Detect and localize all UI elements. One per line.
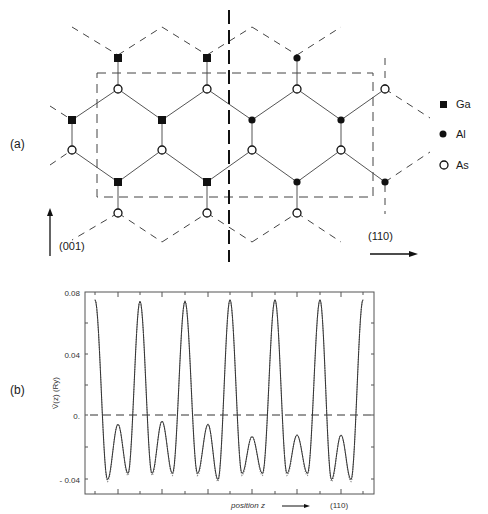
figure: (a) Ga Al As (001) (110) (b) 0.08 0.04	[0, 0, 488, 514]
ytick-0: 0.	[73, 412, 80, 421]
ytick-008: 0.08	[64, 289, 80, 298]
panel-b-chart: (b) 0.08 0.04 0. - 0.04 V̄(z) (Ry)	[10, 289, 374, 510]
x-axis-label: position z	[230, 501, 265, 510]
arrow-up-icon	[47, 208, 53, 216]
panel-a-label: (a)	[10, 137, 25, 151]
legend: Ga Al As	[440, 98, 472, 171]
axis-110-label: (110)	[368, 230, 393, 242]
al-legend-dot-icon	[440, 131, 447, 138]
axis-001-label: (001)	[59, 240, 85, 252]
as-legend-circle-icon	[440, 161, 448, 169]
legend-as-label: As	[456, 159, 469, 171]
ytick-004: 0.04	[64, 351, 80, 360]
curve-solid	[95, 300, 363, 480]
panel-a-lattice: (a) Ga Al As (001) (110)	[10, 10, 472, 262]
ga-legend-square-icon	[440, 101, 447, 108]
plot-frame	[85, 292, 374, 494]
ytick-neg004: - 0.04	[60, 476, 81, 485]
legend-ga-label: Ga	[456, 98, 472, 110]
axis-110: (110)	[368, 230, 418, 257]
axis-001: (001)	[47, 208, 85, 256]
arrow-right-icon	[409, 251, 418, 257]
arrow-right-icon	[304, 504, 310, 508]
legend-al-label: Al	[456, 128, 466, 140]
tick-marks	[85, 292, 374, 494]
x-direction-label: (110)	[330, 501, 348, 510]
y-axis-label: V̄(z) (Ry)	[51, 377, 60, 409]
unit-cell-box	[97, 73, 373, 197]
panel-b-label: (b)	[10, 383, 25, 397]
